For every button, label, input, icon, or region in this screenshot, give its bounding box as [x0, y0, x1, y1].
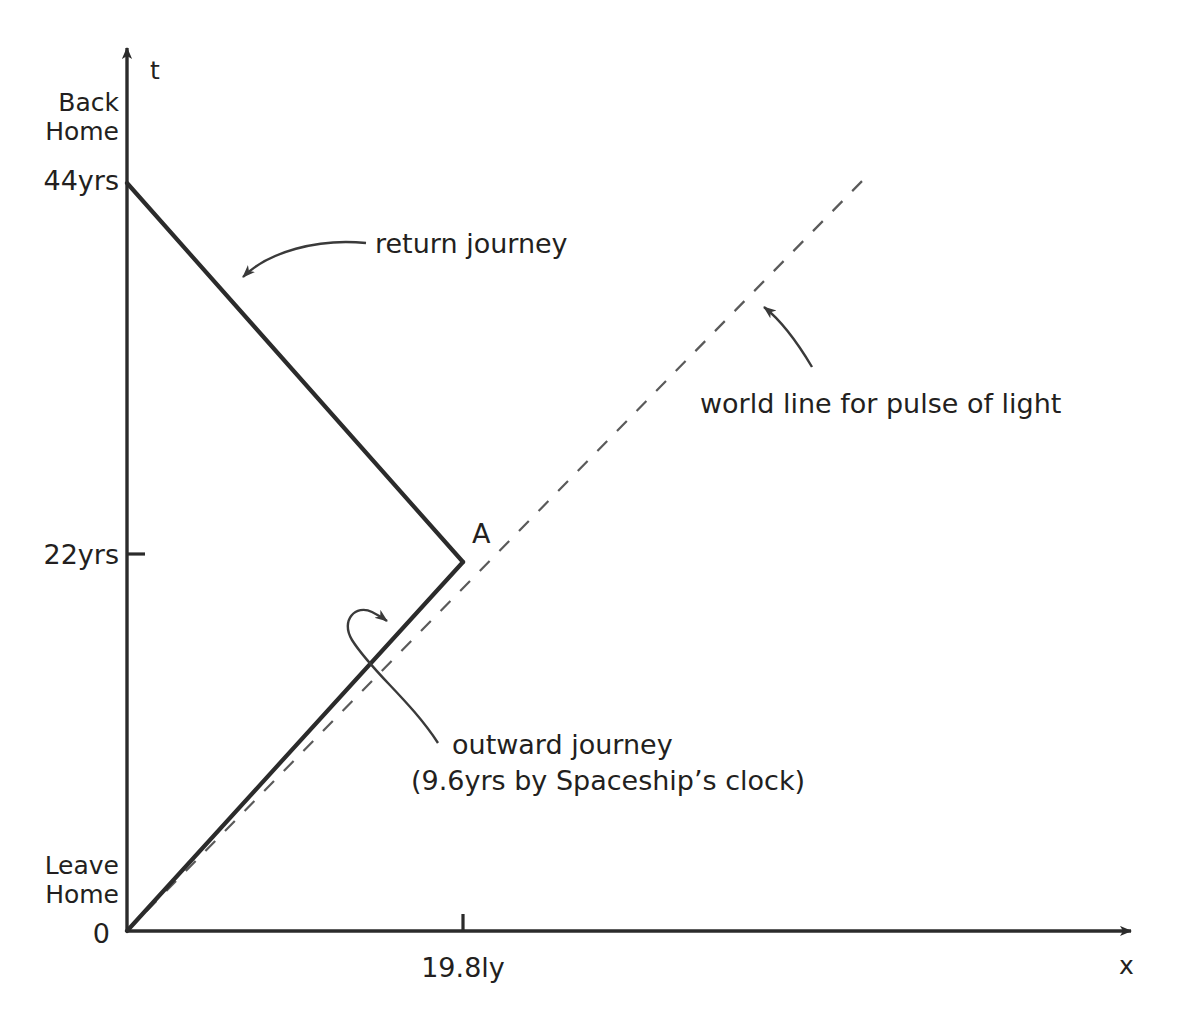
origin-label: 0: [0, 918, 110, 950]
outward-journey-proper-time-annotation: (9.6yrs by Spaceship’s clock): [411, 765, 805, 797]
time-axis-label: t: [150, 56, 160, 86]
point-a-label: A: [472, 518, 490, 550]
diagram-canvas: [0, 0, 1195, 1026]
return-journey-annotation: return journey: [375, 228, 568, 260]
leave-home-label-line2: Home: [0, 880, 119, 910]
back-home-label-line1: Back: [0, 88, 119, 118]
leave-home-label-line1: Leave: [0, 851, 119, 881]
space-axis-label: x: [1119, 951, 1134, 981]
return-journey-leader-arrow: [243, 242, 366, 277]
tick-label-19-8ly: 19.8ly: [383, 952, 543, 984]
light-world-line-annotation: world line for pulse of light: [700, 388, 1061, 420]
tick-label-22yrs: 22yrs: [0, 539, 119, 571]
back-home-label-line2: Home: [0, 117, 119, 147]
light-world-line-leader-arrow: [764, 307, 812, 367]
light-world-line: [127, 175, 868, 931]
tick-label-44yrs: 44yrs: [0, 165, 119, 197]
outward-journey-annotation: outward journey: [452, 729, 673, 761]
spacetime-diagram: t x Back Home 44yrs 22yrs Leave Home 0 1…: [0, 0, 1195, 1026]
outward-journey-line: [127, 562, 463, 931]
